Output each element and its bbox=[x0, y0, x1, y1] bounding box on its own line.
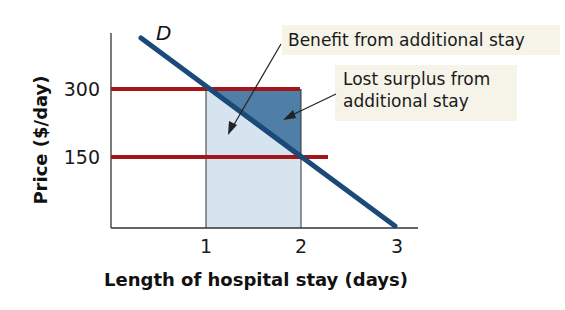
x-tick-3: 3 bbox=[391, 235, 403, 257]
x-tick-2: 2 bbox=[295, 235, 307, 257]
lost-annotation-line2: additional stay bbox=[343, 91, 469, 111]
y-tick-150: 150 bbox=[64, 146, 100, 168]
x-axis-title: Length of hospital stay (days) bbox=[104, 269, 408, 290]
demand-label: D bbox=[156, 21, 171, 45]
benefit-annotation: Benefit from additional stay bbox=[288, 30, 525, 50]
x-tick-1: 1 bbox=[200, 235, 212, 257]
chart: D Benefit from additional stay Lost surp… bbox=[0, 0, 565, 310]
y-tick-300: 300 bbox=[64, 78, 100, 100]
y-axis-title: Price ($/day) bbox=[30, 75, 51, 204]
lost-annotation-line1: Lost surplus from bbox=[343, 69, 490, 89]
